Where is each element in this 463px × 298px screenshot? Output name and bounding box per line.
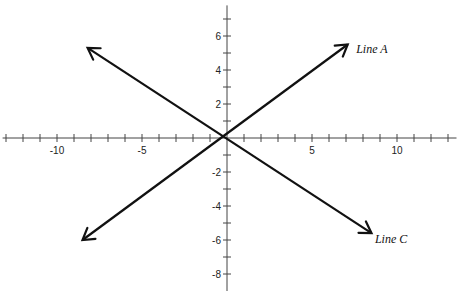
y-tick-label: -4 — [212, 201, 221, 212]
coordinate-plane-chart: -10-5510642-2-4-6-8 Line ALine C — [0, 0, 463, 298]
x-tick-label: -5 — [138, 145, 147, 156]
y-tick-label: -6 — [212, 235, 221, 246]
y-tick-label: -8 — [212, 269, 221, 280]
axes — [3, 5, 457, 291]
line-label: Line C — [374, 232, 408, 246]
x-tick-label: -10 — [50, 145, 65, 156]
arrowhead-icon — [359, 221, 372, 233]
arrowhead-icon — [88, 48, 101, 60]
x-tick-label: 10 — [391, 145, 403, 156]
x-tick-label: 5 — [309, 145, 315, 156]
line-label: Line A — [355, 42, 388, 56]
y-tick-label: 4 — [215, 65, 221, 76]
y-tick-label: -2 — [212, 167, 221, 178]
y-tick-label: 2 — [215, 99, 221, 110]
y-tick-label: 6 — [215, 31, 221, 42]
